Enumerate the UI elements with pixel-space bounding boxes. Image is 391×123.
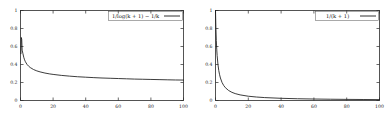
x-tick-label: 20 <box>50 104 56 109</box>
x-tick-label: 40 <box>83 104 89 109</box>
left-legend-label: 1/log(k + 1) − 1/k <box>112 13 160 20</box>
right-plot-background <box>195 0 391 123</box>
x-tick-label: 100 <box>179 104 188 109</box>
left-plot-panel: 00.20.40.60.81 020406080100 1/log(k + 1)… <box>0 0 195 123</box>
x-tick-label: 60 <box>311 104 317 109</box>
y-tick-label: 0.2 <box>10 80 17 85</box>
y-tick-label: 0.8 <box>10 26 17 31</box>
x-tick-label: 20 <box>245 104 251 109</box>
right-legend-label: 1/(k + 1) <box>326 13 349 19</box>
x-tick-label: 100 <box>375 104 384 109</box>
y-tick-label: 0.2 <box>205 80 212 85</box>
y-tick-label: 0 <box>210 98 213 103</box>
right-plot-svg: 00.20.40.60.81 020406080100 1/(k + 1) <box>195 0 391 123</box>
x-tick-label: 0 <box>19 104 22 109</box>
x-tick-label: 0 <box>214 104 217 109</box>
y-tick-label: 0.4 <box>10 62 17 67</box>
y-tick-label: 0.8 <box>205 26 212 31</box>
y-tick-label: 0 <box>15 98 18 103</box>
y-tick-label: 0.6 <box>10 44 17 49</box>
x-tick-label: 60 <box>115 104 121 109</box>
x-tick-label: 80 <box>344 104 350 109</box>
y-tick-label: 1 <box>15 8 18 13</box>
x-tick-label: 40 <box>278 104 284 109</box>
left-plot-background <box>0 0 195 123</box>
y-tick-label: 0.4 <box>205 62 212 67</box>
left-plot-svg: 00.20.40.60.81 020406080100 1/log(k + 1)… <box>0 0 195 123</box>
y-tick-label: 0.6 <box>205 44 212 49</box>
x-tick-label: 80 <box>148 104 154 109</box>
right-plot-panel: 00.20.40.60.81 020406080100 1/(k + 1) <box>195 0 390 123</box>
y-tick-label: 1 <box>210 8 213 13</box>
two-panel-figure: 00.20.40.60.81 020406080100 1/log(k + 1)… <box>0 0 391 123</box>
